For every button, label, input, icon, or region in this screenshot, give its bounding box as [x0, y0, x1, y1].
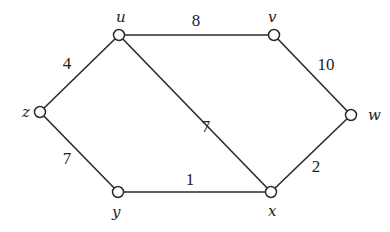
node-label-w: w [368, 106, 381, 124]
edge-weight-z-u: 4 [63, 54, 72, 73]
edge-v-w [274, 35, 351, 115]
edge-weight-z-y: 7 [63, 149, 72, 168]
edge-weight-x-w: 2 [312, 157, 321, 176]
node-label-x: x [268, 202, 277, 220]
edge-z-u [40, 35, 119, 112]
edge-weight-v-w: 10 [318, 55, 335, 74]
node-z [35, 107, 46, 118]
edge-x-w [271, 115, 351, 192]
node-label-v: v [268, 8, 277, 26]
node-w [346, 110, 357, 121]
edge-weight-u-x: 7 [202, 117, 211, 136]
node-label-u: u [116, 8, 126, 26]
node-y [113, 187, 124, 198]
node-x [266, 187, 277, 198]
node-label-z: z [21, 103, 30, 121]
edge-weight-u-v: 8 [192, 11, 201, 30]
node-v [269, 30, 280, 41]
edge-z-y [40, 112, 118, 192]
edge-u-x [119, 35, 271, 192]
node-label-y: y [111, 203, 121, 221]
graph-diagram: 81047712 uvwxyz [0, 0, 390, 232]
edge-weight-y-x: 1 [186, 170, 195, 189]
node-u [114, 30, 125, 41]
